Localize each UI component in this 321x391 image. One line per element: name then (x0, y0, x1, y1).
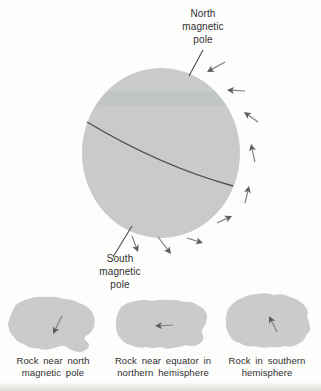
rock-shape-equator (116, 300, 207, 349)
sphere-shading-band (80, 92, 242, 105)
page-scan-shadow (0, 382, 321, 391)
rock-equator-caption: Rock near equator in northern hemisphere (108, 355, 218, 379)
rock-north-caption: Rock near north magnetic pole (3, 355, 103, 379)
north-pole-label: North magnetic pole (160, 7, 246, 46)
south-pole-label: South magnetic pole (77, 252, 163, 291)
figure-canvas: North magnetic pole South magnetic pole … (0, 0, 321, 391)
rock-shape-south (226, 293, 310, 348)
rock-shape-north (8, 297, 95, 352)
north-pole-leader-line (189, 50, 203, 76)
rock-south-caption: Rock in southern hemisphere (217, 355, 317, 379)
diagram-graphics (0, 0, 321, 391)
